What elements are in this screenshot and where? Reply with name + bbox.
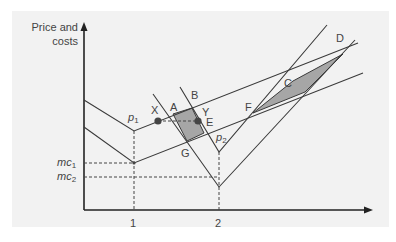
- p1-vertex-dot: [132, 161, 135, 164]
- shaded-region-fcd: [253, 54, 343, 113]
- p2-label: p2: [216, 131, 227, 147]
- point-b-label: B: [191, 89, 198, 101]
- mc2-label: mc2: [57, 170, 76, 186]
- point-x-dot: [154, 117, 161, 124]
- x-tick-1: 1: [130, 217, 136, 229]
- price-line-1: [84, 43, 358, 131]
- point-g-label: G: [181, 147, 190, 159]
- point-c-label: C: [284, 77, 292, 89]
- cost-line-1: [84, 73, 363, 163]
- point-x-label: X: [151, 104, 158, 116]
- x-tick-2: 2: [215, 217, 221, 229]
- y-axis-label: Price and costs: [27, 20, 78, 48]
- point-y-dot: [194, 117, 201, 124]
- y-axis-arrow-icon: [81, 22, 88, 31]
- point-d-label: D: [336, 32, 344, 44]
- point-e-label: E: [206, 116, 213, 128]
- point-f-label: F: [245, 101, 252, 113]
- p1-label: p1: [128, 111, 139, 127]
- point-a-label: A: [170, 101, 177, 113]
- y-axis-label-line1: Price and: [27, 20, 78, 34]
- shaded-region-abeg: [173, 108, 204, 141]
- x-axis-arrow-icon: [364, 207, 373, 214]
- y-axis-label-line2: costs: [27, 34, 78, 48]
